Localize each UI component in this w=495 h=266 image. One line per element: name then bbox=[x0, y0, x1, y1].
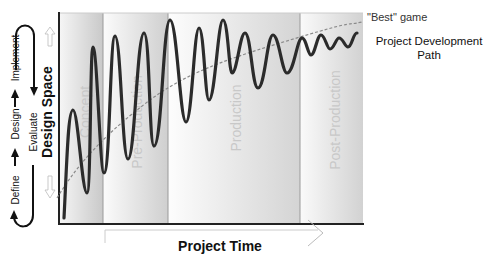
cycle-arrow-design-to-implement-icon bbox=[11, 89, 19, 98]
design-space-down-arrow-icon bbox=[45, 176, 55, 198]
x-axis-label: Project Time bbox=[120, 238, 320, 254]
cycle-step-define: Define bbox=[10, 175, 21, 204]
phase-label-postproduction: Post-Production bbox=[327, 70, 343, 170]
cycle-arrow-define-to-design-icon bbox=[11, 148, 19, 157]
cycle-step-design: Design bbox=[10, 108, 21, 139]
development-path-legend-line2: Path bbox=[364, 48, 494, 62]
y-axis-label: Design Space bbox=[39, 66, 55, 158]
cycle-step-implement: Implement bbox=[10, 34, 21, 81]
best-game-legend: "Best" game bbox=[367, 11, 427, 23]
cycle-step-evaluate: Evaluate bbox=[28, 112, 39, 151]
cycle-arrow-up-icon bbox=[10, 210, 18, 219]
cycle-arrow-down-icon bbox=[30, 87, 38, 96]
phase-label-production: Production bbox=[228, 85, 244, 152]
design-space-up-arrow-icon bbox=[45, 27, 55, 46]
development-path-legend-line1: Project Development bbox=[364, 34, 494, 48]
development-path-legend: Project Development Path bbox=[364, 34, 494, 62]
